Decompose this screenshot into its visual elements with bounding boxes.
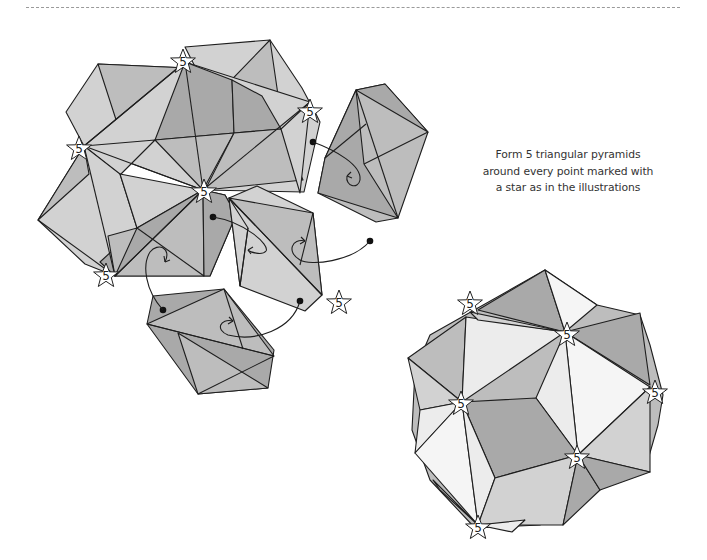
assembly-figure: 5 5 5 5 5 5 bbox=[38, 40, 428, 394]
svg-text:5: 5 bbox=[75, 142, 83, 156]
svg-text:5: 5 bbox=[457, 397, 465, 411]
svg-text:5: 5 bbox=[563, 328, 571, 342]
svg-text:5: 5 bbox=[200, 185, 208, 199]
star-marker: 5 bbox=[327, 290, 352, 314]
svg-text:5: 5 bbox=[306, 105, 314, 119]
svg-text:5: 5 bbox=[474, 521, 482, 535]
svg-text:5: 5 bbox=[179, 55, 187, 69]
svg-text:5: 5 bbox=[573, 451, 581, 465]
svg-text:5: 5 bbox=[466, 297, 474, 311]
origami-diagram: 5 5 5 5 5 5 5 5 5 bbox=[0, 0, 707, 560]
svg-text:5: 5 bbox=[651, 386, 659, 400]
svg-text:5: 5 bbox=[335, 296, 343, 310]
svg-text:5: 5 bbox=[102, 269, 110, 283]
finished-model-figure: 5 5 5 5 5 5 bbox=[408, 270, 667, 539]
